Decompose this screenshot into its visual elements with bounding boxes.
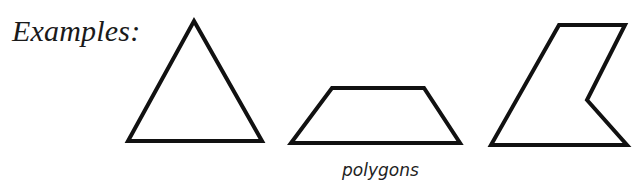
- polygons-caption: polygons: [342, 160, 419, 180]
- polygon-examples-figure: [0, 0, 635, 192]
- trapezoid-shape: [291, 88, 460, 143]
- triangle-shape: [128, 21, 262, 141]
- concave-pentagon-shape: [491, 25, 627, 145]
